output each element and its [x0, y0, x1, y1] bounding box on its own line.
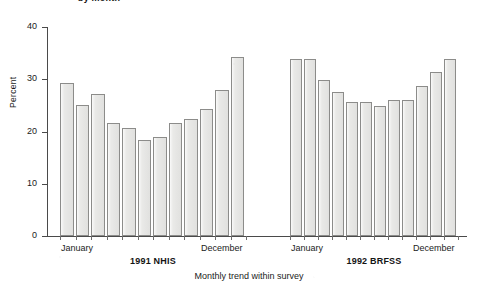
- x-tick: [360, 236, 361, 240]
- x-tick: [416, 236, 417, 240]
- x-tick: [318, 236, 319, 240]
- bar: [416, 86, 428, 236]
- x-tick: [346, 236, 347, 240]
- bar: [231, 57, 245, 236]
- plot-area: 010203040: [47, 27, 467, 236]
- x-axis-line: [47, 236, 467, 237]
- x-tick: [444, 236, 445, 240]
- y-tick: 0: [42, 236, 48, 237]
- bar: [107, 123, 121, 236]
- chart-figure: by month Percent 010203040 JanuaryDecemb…: [0, 0, 498, 292]
- y-tick-label: 40: [27, 20, 37, 33]
- x-tick: [231, 236, 232, 240]
- x-label-first-month: January: [61, 243, 93, 253]
- x-tick: [290, 236, 291, 240]
- x-axis-title: Monthly trend within survey: [194, 271, 303, 281]
- x-tick: [76, 236, 77, 240]
- group-label: 1992 BRFSS: [346, 256, 401, 266]
- bar: [153, 137, 167, 236]
- bar: [60, 83, 74, 236]
- bar: [430, 72, 442, 236]
- x-tick: [388, 236, 389, 240]
- bar: [402, 100, 414, 236]
- x-tick: [374, 236, 375, 240]
- bar: [360, 102, 372, 236]
- bar: [91, 94, 105, 236]
- group-label: 1991 NHIS: [130, 256, 176, 266]
- bar: [200, 109, 214, 236]
- bar: [318, 80, 330, 236]
- x-tick: [138, 236, 139, 240]
- x-tick: [458, 236, 459, 240]
- x-tick: [122, 236, 123, 240]
- bar: [122, 128, 136, 236]
- bar: [290, 59, 302, 236]
- x-tick: [107, 236, 108, 240]
- x-tick: [246, 236, 247, 240]
- x-tick: [402, 236, 403, 240]
- x-label-last-month: December: [201, 243, 243, 253]
- bar-group-1992-brfss: [290, 27, 458, 236]
- x-tick: [184, 236, 185, 240]
- x-tick: [91, 236, 92, 240]
- x-tick: [430, 236, 431, 240]
- bar: [215, 90, 229, 236]
- bar: [346, 102, 358, 236]
- bar: [304, 59, 316, 236]
- y-tick: 10: [42, 184, 48, 185]
- x-label-first-month: January: [291, 243, 323, 253]
- y-tick-label: 20: [27, 125, 37, 138]
- x-label-last-month: December: [413, 243, 455, 253]
- x-tick: [60, 236, 61, 240]
- bar: [388, 100, 400, 236]
- x-tick: [200, 236, 201, 240]
- y-tick-label: 10: [27, 177, 37, 190]
- bar: [374, 106, 386, 236]
- bar: [444, 59, 456, 236]
- bar: [76, 105, 90, 236]
- x-tick: [332, 236, 333, 240]
- y-tick: 30: [42, 79, 48, 80]
- bar: [332, 92, 344, 236]
- x-tick: [215, 236, 216, 240]
- y-tick: 40: [42, 27, 48, 28]
- y-axis-title: Percent: [8, 77, 18, 108]
- x-tick: [153, 236, 154, 240]
- x-tick: [304, 236, 305, 240]
- x-tick: [169, 236, 170, 240]
- y-tick: 20: [42, 132, 48, 133]
- bar: [184, 119, 198, 236]
- figure-title: by month: [78, 0, 120, 3]
- bar: [138, 140, 152, 236]
- bar: [169, 123, 183, 236]
- y-tick-label: 0: [32, 229, 37, 242]
- bar-group-1991-nhis: [60, 27, 246, 236]
- y-tick-label: 30: [27, 72, 37, 85]
